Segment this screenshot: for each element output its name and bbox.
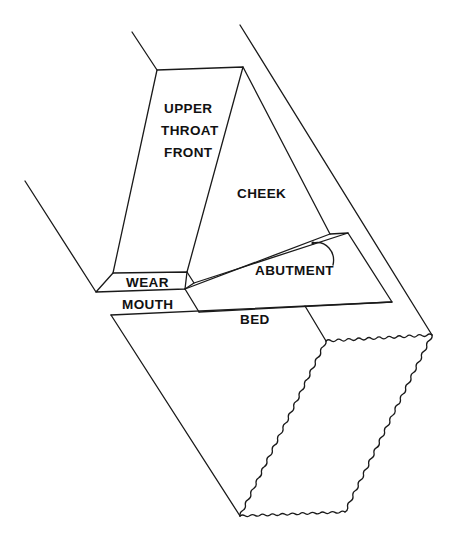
front-label: FRONT <box>164 145 213 160</box>
upper-label: UPPER <box>164 101 213 116</box>
left-outer-wall-line <box>25 181 96 292</box>
broken-section-left-edge <box>240 341 326 516</box>
cheek-label: CHEEK <box>237 186 286 201</box>
broken-section-right-edge <box>345 335 432 512</box>
throat-label: THROAT <box>161 123 219 138</box>
bed-label: BED <box>240 312 270 327</box>
abutment-pointer-arrow <box>313 243 334 265</box>
cheek-edge-line <box>243 67 330 234</box>
fireplace-diagram: UPPER THROAT FRONT CHEEK WEAR MOUTH ABUT… <box>0 0 450 543</box>
wear-label: WEAR <box>126 275 169 290</box>
abutment-pointer-dot <box>311 241 314 244</box>
abutment-label: ABUTMENT <box>255 263 334 278</box>
bed-inner-edge <box>305 306 326 341</box>
mouth-outline <box>185 289 199 312</box>
right-outer-wall-line <box>240 25 432 335</box>
upper-left-wall-line <box>132 32 157 70</box>
bed-left-edge <box>111 315 240 516</box>
mouth-label: MOUTH <box>122 297 174 312</box>
broken-section-top-edge <box>326 334 432 342</box>
upper-throat-front-outline <box>113 67 243 273</box>
broken-section-bottom-edge <box>240 511 345 516</box>
